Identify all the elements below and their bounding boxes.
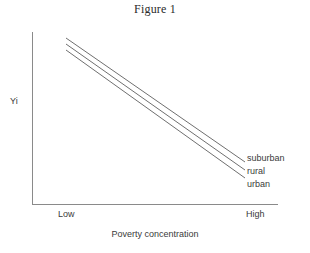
series-label-rural: rural	[247, 166, 265, 176]
trend-line-rural	[66, 44, 245, 170]
series-label-suburban: suburban	[247, 153, 285, 163]
x-axis-title: Poverty concentration	[0, 229, 310, 239]
trend-line-urban	[66, 50, 245, 178]
series-label-urban: urban	[247, 179, 270, 189]
figure-container: Figure 1 Yi Low High Poverty concentrati…	[0, 0, 310, 253]
y-axis-label: Yi	[10, 96, 18, 106]
trend-line-suburban	[66, 38, 245, 162]
x-tick-label-low: Low	[58, 209, 75, 219]
x-tick-label-high: High	[246, 209, 265, 219]
